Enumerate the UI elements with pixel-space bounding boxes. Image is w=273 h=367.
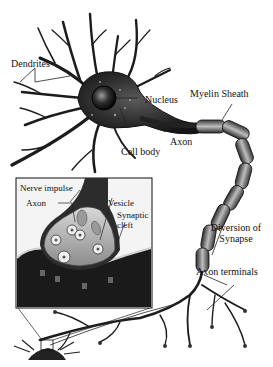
label-dendrites: Dendrites: [11, 58, 50, 69]
label-synaptic-line1: Synaptic: [117, 210, 149, 220]
label-cell-body: Cell body: [121, 146, 160, 157]
label-diversion-of-synapse: Diversion of Synapse: [206, 222, 266, 244]
myelin-sheath: [196, 119, 255, 272]
label-synaptic-cleft: Synaptic cleft: [117, 210, 149, 230]
label-nucleus: Nucleus: [145, 94, 178, 105]
label-diversion-line1: Diversion of: [206, 222, 266, 233]
label-vesicle: Vesicle: [108, 198, 134, 208]
label-myelin-sheath: Myelin Sheath: [190, 88, 249, 99]
label-axon-terminals: Axon terminals: [196, 266, 258, 277]
label-inset-axon: Axon: [26, 198, 46, 208]
label-nerve-impulse: Nerve impulse: [20, 183, 73, 193]
label-diversion-line2: Synapse: [206, 233, 266, 244]
receiving-neuron: [14, 340, 80, 360]
label-synaptic-line2: cleft: [117, 220, 149, 230]
neuron-diagram: Dendrites Nucleus Cell body Axon Myelin …: [0, 0, 273, 367]
label-axon: Axon: [170, 136, 192, 147]
nucleus-shape: [92, 86, 116, 110]
